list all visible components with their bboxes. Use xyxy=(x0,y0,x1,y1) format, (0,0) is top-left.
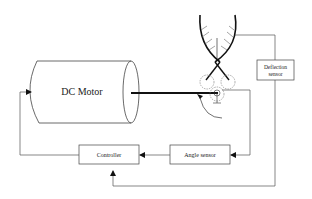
angle-sensor-label: Angle sensor xyxy=(184,152,216,158)
angle-sensor-block: Angle sensor xyxy=(170,145,230,164)
line-controller-motor xyxy=(20,92,79,155)
motor-control-diagram: DC Motor Deflectio xyxy=(0,0,312,199)
dc-motor: DC Motor xyxy=(30,61,139,123)
deflection-sensor-block: Deflection sensor xyxy=(257,60,294,80)
motor-label: DC Motor xyxy=(61,86,103,97)
controller-label: Controller xyxy=(97,152,122,158)
controller-block: Controller xyxy=(79,145,139,164)
pulley-center xyxy=(213,90,221,103)
deflection-sensor-label-2: sensor xyxy=(268,71,282,77)
deflection-sensor-label-1: Deflection xyxy=(264,64,287,70)
rotation-arrow xyxy=(200,98,222,118)
line-gripper-deflection xyxy=(235,35,275,60)
line-deflection-controller xyxy=(113,80,275,186)
pulley-assembly xyxy=(200,75,235,101)
gripper xyxy=(200,15,236,80)
